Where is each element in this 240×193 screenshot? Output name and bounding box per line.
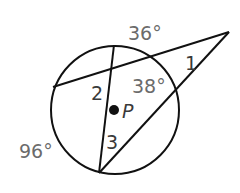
center-point-p: [109, 105, 119, 115]
arc-label-38: 38°: [132, 75, 166, 97]
center-label-p: P: [122, 100, 134, 122]
arc-label-36: 36°: [128, 22, 162, 44]
angle-label-1: 1: [185, 52, 197, 74]
angle-label-2: 2: [91, 82, 103, 104]
angle-label-3: 3: [106, 131, 118, 153]
circle-angles-diagram: 36° 38° 96° 1 2 3 P: [0, 0, 240, 193]
arc-label-96: 96°: [19, 140, 53, 162]
